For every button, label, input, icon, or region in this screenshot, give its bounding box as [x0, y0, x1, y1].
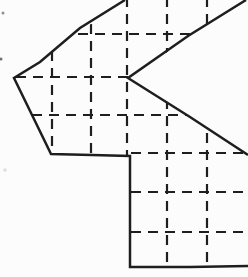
paper-speck — [3, 168, 7, 172]
sketch-canvas — [0, 0, 248, 277]
dashed-grid — [16, 0, 248, 268]
paper-speck — [0, 58, 3, 61]
polygon-figure — [0, 0, 248, 277]
main-outline — [14, 0, 248, 267]
paper-speck — [2, 12, 5, 15]
notch-outline — [128, 0, 248, 155]
